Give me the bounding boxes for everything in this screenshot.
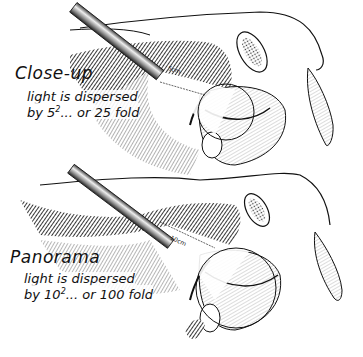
close-up-line2: by 52... or 25 fold	[27, 103, 139, 119]
illustration-canvas	[0, 0, 363, 357]
panorama-title: Panorama	[10, 247, 100, 267]
close-up-line1: light is dispersed	[27, 90, 138, 103]
right-organ	[307, 68, 333, 146]
close-up-title: Close-up	[15, 63, 93, 83]
panorama-line1: light is dispersed	[24, 272, 135, 285]
panorama-line2: by 102... or 100 fold	[24, 285, 153, 301]
right-organ	[314, 232, 342, 300]
